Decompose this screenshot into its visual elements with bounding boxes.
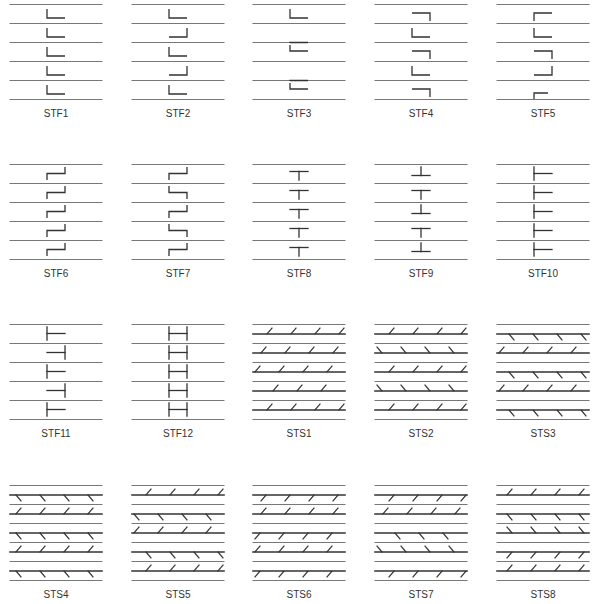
symbol-l_br-icon (534, 66, 552, 75)
symbol-s-icon (169, 186, 187, 199)
panel-stf12 (132, 325, 224, 420)
symbol-h-icon (169, 403, 187, 416)
panel-label: STS1 (253, 428, 345, 439)
panel-label: STF4 (375, 108, 467, 119)
hatch-marks (267, 404, 344, 410)
symbol-l_bl-icon (169, 85, 187, 94)
hatch-marks (507, 552, 584, 558)
hatch-marks (377, 546, 454, 552)
hatch-marks (134, 514, 211, 520)
panel-stf1 (10, 5, 102, 100)
panel-sts3 (497, 325, 589, 420)
hatch-marks (389, 571, 466, 577)
hatch-marks (507, 565, 584, 571)
symbol-l_bl-icon (412, 66, 430, 75)
hatch-marks (146, 489, 223, 495)
symbol-z-icon (47, 186, 65, 199)
hatch-marks (389, 366, 466, 372)
symbol-t-icon (290, 229, 308, 238)
symbol-t-icon (412, 191, 430, 200)
hatch-marks (261, 508, 338, 514)
symbol-tl-icon (534, 243, 552, 256)
panel-stf10 (497, 165, 589, 260)
symbol-h-icon (169, 384, 187, 397)
symbol-l_bl-icon (47, 66, 65, 75)
panel-stf8 (253, 165, 345, 260)
hatch-marks (261, 495, 338, 501)
symbol-t-icon (290, 191, 308, 200)
symbol-z-icon (47, 205, 65, 218)
symbol-t-icon (290, 248, 308, 257)
hatch-marks (16, 546, 93, 552)
symbol-l_br-icon (169, 28, 187, 37)
hatch-marks (507, 514, 584, 520)
panel-label: STF7 (132, 268, 224, 279)
symbol-g_tr_at-icon (412, 13, 430, 21)
hatch-marks (146, 552, 223, 558)
symbol-z-icon (47, 224, 65, 237)
panel-stf7 (132, 165, 224, 260)
symbol-z-icon (47, 243, 65, 256)
hatch-marks (389, 495, 466, 501)
figure-canvas (0, 0, 596, 604)
hatch-marks (261, 347, 338, 353)
panel-stf2 (132, 5, 224, 100)
panel-label: STF10 (497, 268, 589, 279)
panel-sts2 (375, 325, 467, 420)
symbol-tl-icon (534, 205, 552, 218)
panel-label: STS4 (10, 589, 102, 600)
symbol-g_tl_short-icon (534, 93, 548, 99)
hatch-marks (146, 565, 223, 571)
panel-label: STF6 (10, 268, 102, 279)
panel-sts6 (253, 486, 345, 581)
panel-sts5 (132, 486, 224, 581)
panel-sts7 (375, 486, 467, 581)
panel-label: STS8 (497, 589, 589, 600)
hatch-marks (16, 495, 93, 501)
symbol-t-icon (290, 172, 308, 181)
panel-stf3 (253, 5, 345, 100)
hatch-marks (377, 385, 454, 391)
symbol-tl-icon (47, 403, 65, 416)
hatch-marks (255, 533, 332, 539)
panel-label: STS3 (497, 428, 589, 439)
panel-label: STF3 (253, 108, 345, 119)
panel-label: STS2 (375, 428, 467, 439)
hatch-marks (273, 385, 326, 391)
panel-label: STF12 (132, 428, 224, 439)
symbol-tr-icon (47, 384, 65, 397)
panel-sts4 (10, 486, 102, 581)
hatch-marks (507, 489, 584, 495)
hatch-marks (267, 328, 344, 334)
symbol-g_tr_at-icon (412, 89, 430, 97)
symbol-l_bl-icon (47, 47, 65, 56)
symbol-t-icon (412, 229, 430, 238)
symbol-tl-icon (47, 365, 65, 378)
symbol-s-icon (169, 224, 187, 237)
panel-label: STF9 (375, 268, 467, 279)
symbol-g_tr_at-icon (534, 51, 552, 59)
symbol-h-icon (169, 327, 187, 340)
hatch-marks (16, 571, 93, 577)
symbol-tr-icon (47, 346, 65, 359)
symbol-g_tl-icon (290, 81, 308, 82)
symbol-t-icon (290, 210, 308, 219)
symbol-h-icon (169, 346, 187, 359)
panel-label: STS7 (375, 589, 467, 600)
symbol-tl-icon (47, 327, 65, 340)
symbol-tl-icon (534, 167, 552, 180)
symbol-h-icon (169, 365, 187, 378)
hatch-marks (255, 546, 332, 552)
hatch-marks (389, 328, 466, 334)
hatch-marks (499, 385, 576, 391)
hatch-marks (499, 347, 576, 353)
symbol-z-icon (169, 243, 187, 256)
hatch-marks (16, 533, 93, 539)
panel-stf11 (10, 325, 102, 420)
hatch-marks (255, 571, 332, 577)
symbol-inv_t-icon (412, 205, 430, 214)
symbol-l_bl-icon (47, 85, 65, 94)
symbol-l_bl-icon (290, 9, 308, 18)
hatch-marks (134, 527, 211, 533)
symbol-g_tl_at-icon (534, 13, 552, 21)
